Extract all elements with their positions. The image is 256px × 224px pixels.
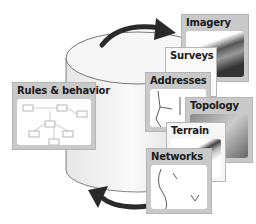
card-title-topology: Topology: [190, 100, 239, 111]
card-title-imagery: Imagery: [186, 17, 231, 28]
rules-flowchart-thumbnail: [17, 99, 91, 145]
card-title-addresses: Addresses: [150, 75, 207, 86]
cycle-arrow-bottom: [100, 196, 148, 207]
card-rules-behavior: Rules & behavior: [12, 82, 96, 150]
diagram: Imagery Surveys Addresses Topology Terra…: [0, 0, 256, 224]
card-title-rules-behavior: Rules & behavior: [17, 85, 110, 96]
card-title-networks: Networks: [151, 151, 203, 162]
card-title-terrain: Terrain: [171, 125, 209, 136]
card-title-surveys: Surveys: [170, 50, 214, 61]
card-networks: Networks: [146, 148, 212, 214]
networks-map-thumbnail: [151, 165, 207, 209]
